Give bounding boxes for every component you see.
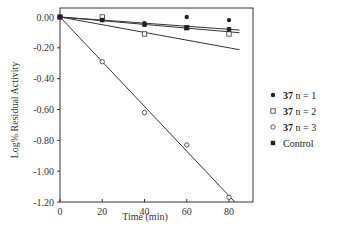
y-tick-label: -1.20	[33, 197, 54, 208]
data-point	[185, 15, 189, 19]
legend-label: Control	[283, 138, 314, 149]
y-tick-label: -0.60	[33, 104, 54, 115]
legend-rest: n = 2	[296, 106, 317, 117]
data-point	[142, 110, 146, 114]
fit-line	[60, 17, 235, 202]
legend-marker	[271, 125, 275, 129]
x-tick-label: 60	[182, 206, 192, 217]
data-point	[227, 18, 231, 22]
legend-compound: 37	[283, 106, 296, 117]
data-point	[100, 60, 104, 64]
data-point	[227, 27, 231, 31]
legend-rest: n = 3	[296, 122, 317, 133]
legend-rest: n = 1	[296, 90, 317, 101]
data-point	[185, 26, 189, 30]
data-point	[185, 143, 189, 147]
y-tick-label: -1.00	[33, 166, 54, 177]
plot-border	[60, 8, 253, 202]
y-tick-label: -0.20	[33, 42, 54, 53]
legend-label: 37 n = 3	[283, 122, 316, 133]
legend: 37 n = 137 n = 237 n = 3Control	[271, 90, 316, 149]
y-axis: 0.00-0.20-0.40-0.60-0.80-1.00-1.20	[33, 12, 60, 208]
legend-marker	[271, 93, 275, 97]
data-point	[100, 18, 104, 22]
fit-line	[60, 17, 240, 30]
legend-marker	[271, 109, 275, 113]
y-axis-title: Log% Residual Activity	[9, 62, 20, 159]
data-point	[142, 23, 146, 27]
x-axis-title: Time (min)	[122, 211, 167, 223]
x-tick-label: 80	[224, 206, 234, 217]
legend-label: 37 n = 2	[283, 106, 316, 117]
chart: 0.00-0.20-0.40-0.60-0.80-1.00-1.20 02040…	[0, 0, 341, 237]
legend-compound: 37	[283, 122, 296, 133]
x-tick-label: 20	[97, 206, 107, 217]
plot-frame	[60, 8, 253, 202]
legend-compound: 37	[283, 90, 296, 101]
data-point	[227, 32, 231, 36]
fit-lines	[60, 17, 240, 202]
y-tick-label: -0.80	[33, 135, 54, 146]
data-point	[142, 32, 146, 36]
data-point	[227, 195, 231, 199]
y-tick-label: 0.00	[37, 12, 55, 23]
x-tick-label: 0	[58, 206, 63, 217]
legend-marker	[271, 141, 275, 145]
data-point	[58, 15, 62, 19]
y-tick-label: -0.40	[33, 73, 54, 84]
legend-label: 37 n = 1	[283, 90, 316, 101]
